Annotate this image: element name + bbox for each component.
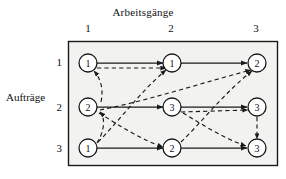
node-r3c3: 3 <box>248 139 266 157</box>
node-label-r2c1: 2 <box>86 102 91 113</box>
node-r1c2: 1 <box>163 54 181 72</box>
job-shop-gantt-graph: 1 1 2 2 3 3 1 2 <box>0 0 286 179</box>
node-label-r1c1: 1 <box>86 58 91 69</box>
node-label-r3c1: 1 <box>86 143 91 154</box>
node-label-r2c2: 3 <box>170 102 175 113</box>
node-label-r3c2: 2 <box>170 143 175 154</box>
node-r2c1: 2 <box>79 98 97 116</box>
node-label-r1c2: 1 <box>170 58 175 69</box>
node-r2c2: 3 <box>163 98 181 116</box>
node-label-r3c3: 3 <box>255 143 260 154</box>
node-r1c1: 1 <box>79 54 97 72</box>
node-label-r1c3: 2 <box>255 58 260 69</box>
node-r1c3: 2 <box>248 54 266 72</box>
node-r3c1: 1 <box>79 139 97 157</box>
figure-canvas: Arbeitsgänge Aufträge 1 2 3 1 2 3 <box>0 0 286 179</box>
node-r3c2: 2 <box>163 139 181 157</box>
node-label-r2c3: 3 <box>255 102 260 113</box>
node-r2c3: 3 <box>248 98 266 116</box>
